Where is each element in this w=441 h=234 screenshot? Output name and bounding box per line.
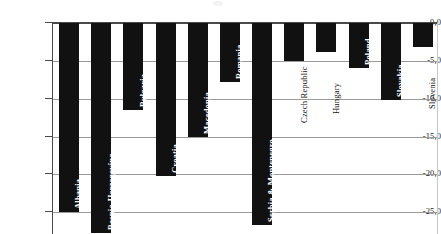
bar-chart: 0,0-5,0-10,0-15,0-20,0-25,0 AlbaniaBosni… — [0, 0, 441, 234]
tick-mark — [45, 98, 52, 99]
bar-category-label: Bulgaria — [138, 74, 148, 107]
bar-category-label: Albania — [73, 179, 83, 209]
tick-mark — [45, 22, 52, 23]
tick-mark — [45, 60, 52, 61]
tick-mark — [45, 136, 52, 137]
tick-mark — [45, 211, 52, 212]
bar-category-label: Croatia — [170, 144, 180, 173]
bar-category-label: Bosnia-Herzegovina — [106, 153, 116, 230]
bar-category-label: Serbia & Montenegro — [266, 139, 276, 222]
bar-category-label: Hungary — [331, 83, 341, 114]
decorative-top-mark — [213, 1, 223, 6]
tick-mark — [45, 173, 52, 174]
bar-category-label: Poland — [363, 39, 373, 66]
bar-category-label: Slovenia — [427, 78, 437, 109]
bar-category-label: Macedonia — [202, 92, 212, 134]
bar[interactable] — [316, 23, 336, 52]
bar-category-label: Czech Republic — [299, 66, 309, 123]
bar-category-label: Slovakia — [395, 64, 405, 97]
bar[interactable] — [284, 23, 304, 61]
bar-category-label: Romania — [234, 45, 244, 79]
bar[interactable] — [413, 23, 433, 47]
plot-area: AlbaniaBosnia-HerzegovinaBulgariaCroatia… — [52, 22, 438, 234]
